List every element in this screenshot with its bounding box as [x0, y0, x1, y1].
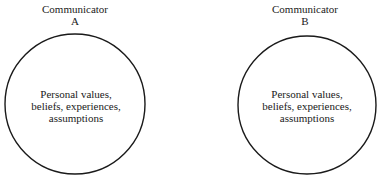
inner-text-line: beliefs, experiences,: [31, 100, 120, 112]
inner-text-line: Personal values,: [31, 88, 120, 100]
communicator-b-label: Communicator B: [272, 3, 338, 27]
communicator-b-letter: B: [272, 15, 338, 27]
inner-text-line: Personal values,: [262, 88, 351, 100]
inner-text-line: beliefs, experiences,: [262, 100, 351, 112]
communicator-b-inner-text: Personal values, beliefs, experiences, a…: [262, 88, 351, 124]
communicator-b-title: Communicator: [272, 3, 338, 15]
communicator-a-title: Communicator: [42, 3, 108, 15]
inner-text-line: assumptions: [31, 112, 120, 124]
inner-text-line: assumptions: [262, 112, 351, 124]
communicator-a-letter: A: [42, 15, 108, 27]
communicator-a-label: Communicator A: [42, 3, 108, 27]
communicator-a-inner-text: Personal values, beliefs, experiences, a…: [31, 88, 120, 124]
